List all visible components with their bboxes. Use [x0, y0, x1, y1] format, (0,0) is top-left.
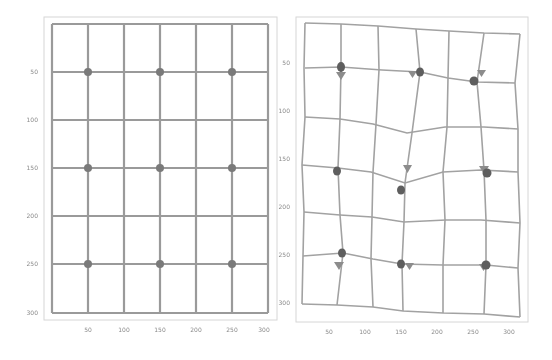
triangle-marker [334, 262, 344, 270]
y-tick-label: 150 [27, 164, 39, 171]
x-tick-label: 300 [503, 328, 515, 335]
x-tick-label: 250 [226, 326, 238, 333]
left-y-ticks: 50 100 150 200 250 300 [27, 68, 39, 316]
right-y-ticks: 50 100 150 200 250 300 [279, 59, 291, 306]
y-tick-label: 250 [279, 251, 291, 258]
x-tick-label: 250 [467, 328, 479, 335]
control-point [482, 261, 491, 270]
x-tick-label: 100 [359, 328, 371, 335]
y-tick-label: 300 [279, 299, 291, 306]
y-tick-label: 300 [27, 309, 39, 316]
control-point [228, 164, 236, 172]
left-x-ticks: 50 100 150 200 250 300 [84, 326, 270, 333]
y-tick-label: 200 [279, 203, 291, 210]
left-plot: 50 100 150 200 250 300 50 100 150 200 25… [27, 17, 277, 333]
y-tick-label: 100 [279, 107, 291, 114]
control-point [337, 62, 345, 72]
x-tick-label: 150 [154, 326, 166, 333]
right-axes-frame [296, 17, 528, 322]
figure: 50 100 150 200 250 300 50 100 150 200 25… [0, 0, 552, 360]
right-x-ticks: 50 100 150 200 250 300 [325, 328, 515, 335]
triangle-marker [403, 165, 412, 173]
control-point [156, 260, 164, 268]
x-tick-label: 150 [395, 328, 407, 335]
y-tick-label: 150 [279, 155, 291, 162]
x-tick-label: 200 [431, 328, 443, 335]
right-control-points [333, 62, 492, 270]
control-point [397, 186, 405, 195]
control-point [338, 249, 346, 258]
x-tick-label: 200 [190, 326, 202, 333]
y-tick-label: 250 [27, 260, 39, 267]
control-point [397, 260, 405, 269]
triangle-marker [408, 71, 417, 78]
control-point [156, 164, 164, 172]
y-tick-label: 100 [27, 116, 39, 123]
control-point [416, 68, 424, 77]
right-plot: 50 100 150 200 250 300 50 100 150 200 25… [279, 17, 528, 335]
triangle-marker [405, 263, 414, 270]
control-point [228, 260, 236, 268]
y-tick-label: 50 [30, 68, 38, 75]
control-point [483, 169, 492, 178]
x-tick-label: 300 [258, 326, 270, 333]
control-point [470, 77, 479, 86]
triangle-marker [336, 72, 346, 80]
y-tick-label: 50 [282, 59, 290, 66]
control-point [333, 167, 341, 176]
control-point [84, 260, 92, 268]
y-tick-label: 200 [27, 212, 39, 219]
x-tick-label: 100 [118, 326, 130, 333]
control-point [84, 68, 92, 76]
x-tick-label: 50 [325, 328, 333, 335]
control-point [156, 68, 164, 76]
control-point [228, 68, 236, 76]
x-tick-label: 50 [84, 326, 92, 333]
control-point [84, 164, 92, 172]
